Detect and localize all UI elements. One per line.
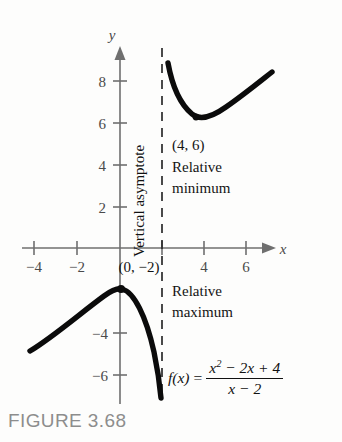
x-axis-label: x bbox=[279, 241, 287, 257]
formula-lhs: f(x) bbox=[168, 369, 190, 387]
x-tick-label-6: 6 bbox=[242, 259, 250, 275]
y-tick-label-2: 2 bbox=[99, 200, 107, 216]
function-formula: f(x) = x2 − 2x + 4 x − 2 bbox=[168, 358, 283, 397]
y-axis-label: y bbox=[107, 27, 116, 43]
formula-equals: = bbox=[194, 369, 203, 387]
x-tick-label--4: −4 bbox=[26, 259, 42, 275]
relative-maximum-point bbox=[117, 285, 125, 293]
relative-maximum-point-label: (0, −2) bbox=[119, 259, 160, 276]
formula-numerator-rest: − 2x + 4 bbox=[221, 359, 280, 376]
y-tick-label-8: 8 bbox=[99, 74, 107, 90]
formula-fraction: x2 − 2x + 4 x − 2 bbox=[206, 358, 283, 397]
y-tick-label--4: −4 bbox=[92, 326, 108, 342]
vertical-asymptote-label: Vertical asymptote bbox=[131, 145, 148, 257]
formula-denominator: x − 2 bbox=[225, 380, 264, 397]
relative-minimum-point-label: (4, 6) bbox=[172, 137, 205, 154]
formula-fraction-bar bbox=[206, 378, 283, 379]
y-axis bbox=[113, 46, 127, 404]
relative-minimum-line2: minimum bbox=[172, 180, 231, 196]
relative-minimum-line1: Relative bbox=[172, 159, 222, 175]
figure-caption: FIGURE 3.68 bbox=[8, 410, 126, 432]
y-tick-label--6: −6 bbox=[92, 368, 108, 384]
y-axis-arrow-icon bbox=[115, 46, 126, 60]
x-axis-arrow-icon bbox=[262, 243, 276, 254]
relative-maximum-line1: Relative bbox=[172, 283, 222, 299]
curve-right-branch bbox=[168, 63, 272, 118]
relative-minimum-point bbox=[193, 114, 200, 121]
figure-container: y x 8 6 4 2 −4 −6 −4 −2 4 6 (0, −2) (4, … bbox=[0, 0, 342, 442]
x-tick-label--2: −2 bbox=[69, 259, 85, 275]
y-tick-label-6: 6 bbox=[99, 116, 107, 132]
y-tick-label-4: 4 bbox=[99, 158, 107, 174]
x-axis bbox=[22, 241, 276, 255]
formula-numerator: x2 − 2x + 4 bbox=[206, 358, 283, 377]
x-tick-label-4: 4 bbox=[200, 259, 208, 275]
relative-maximum-line2: maximum bbox=[172, 304, 233, 320]
